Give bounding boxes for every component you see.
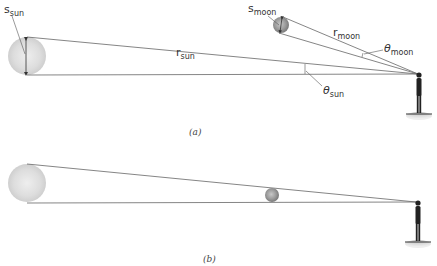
moon xyxy=(265,188,279,202)
label-r-sun: rsun xyxy=(176,46,195,61)
label-theta-sun: θsun xyxy=(323,84,344,99)
observer-figure xyxy=(406,72,432,120)
sun xyxy=(8,37,46,75)
sun-bottom-ray xyxy=(27,202,416,203)
sun-top-ray xyxy=(27,37,418,74)
sun-top-ray xyxy=(27,164,416,202)
theta-moon-arc xyxy=(362,53,363,57)
caption-a: (a) xyxy=(189,127,202,137)
label-s-moon: smoon xyxy=(248,2,276,17)
moon-top-ray xyxy=(283,17,418,74)
label-theta-moon: θmoon xyxy=(384,42,413,57)
label-s-sun: ssun xyxy=(4,3,24,18)
sun-bottom-ray xyxy=(27,74,418,75)
observer-figure xyxy=(405,200,431,248)
angular-size-diagram: ssun rsun θsun smoon rmoon θmoon xyxy=(0,0,437,266)
caption-b: (b) xyxy=(203,254,216,264)
theta-sun-leader xyxy=(306,71,322,86)
label-r-moon: rmoon xyxy=(333,26,360,41)
ground-patch xyxy=(406,112,432,120)
sun xyxy=(8,164,46,202)
ground-patch xyxy=(405,240,431,248)
panel-b: (b) xyxy=(8,164,431,264)
panel-a: ssun rsun θsun smoon rmoon θmoon xyxy=(4,2,432,137)
